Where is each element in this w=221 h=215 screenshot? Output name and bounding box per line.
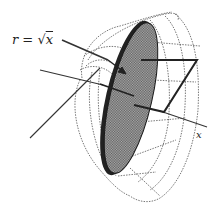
axis-line-left (40, 70, 103, 85)
x-axis-line (160, 111, 207, 127)
x-axis-label: x (196, 129, 202, 140)
diagram-canvas: r = √x x (0, 0, 221, 215)
radicand-x: x (46, 32, 53, 47)
radius-formula-label: r = √x (12, 32, 53, 47)
sqrt-icon: √ (37, 32, 45, 47)
disk-cross-section (89, 16, 169, 180)
radius-pointer-line (62, 40, 108, 60)
equals-sign: = (18, 32, 37, 47)
axis-line-lower-left (30, 68, 100, 138)
